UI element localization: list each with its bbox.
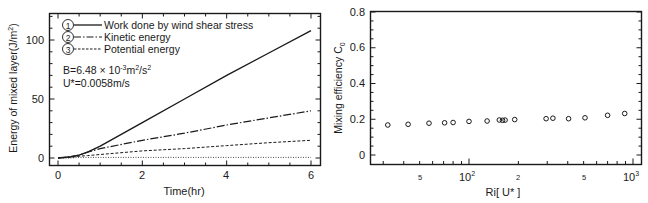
- legend-label-work: Work done by wind shear stress: [104, 19, 253, 31]
- scatter-point: [442, 121, 447, 126]
- left-axis-ticks: [50, 14, 321, 166]
- right-xtick-100: 102: [459, 170, 475, 183]
- scatter-point: [467, 119, 472, 124]
- line-kinetic-energy: [58, 111, 311, 158]
- scatter-point: [622, 111, 627, 116]
- scatter-point: [451, 120, 456, 125]
- scatter-point: [406, 122, 411, 127]
- left-chart: 0 50 100 0 2 4 6 Time(hr) Energy of mixe…: [7, 14, 321, 198]
- right-ytick-0.6: 0.6: [350, 41, 365, 53]
- line-work-done: [58, 31, 311, 158]
- right-xtick-200: 2: [516, 173, 520, 182]
- left-ytick-50: 50: [32, 93, 44, 105]
- left-xtick-4: 4: [223, 169, 229, 181]
- scatter-point: [544, 116, 549, 121]
- annotation-buoyancy-flux: B=6.48 × 10-3m2/s2: [63, 64, 151, 76]
- right-x-axis-label: Ri[ U* ]: [486, 186, 521, 198]
- legend-item-work: 1 Work done by wind shear stress: [63, 19, 254, 31]
- figure: 0 50 100 0 2 4 6 Time(hr) Energy of mixe…: [0, 0, 648, 203]
- scatter-point: [583, 116, 588, 121]
- legend-item-potential: 3 Potential energy: [63, 43, 181, 55]
- right-axis-ticks: [371, 12, 642, 165]
- right-plot-frame: [371, 12, 642, 165]
- legend-number-3: 3: [66, 45, 71, 55]
- right-ytick-0: 0: [359, 149, 365, 161]
- left-y-axis-label: Energy of mixed layer(J/m2): [7, 23, 19, 152]
- line-reference-dotted: [58, 157, 311, 158]
- left-series: [58, 31, 311, 158]
- right-chart: 0 0.2 0.4 0.6 0.8 5 102 2 5 103 Ri[ U* ]…: [332, 6, 642, 198]
- left-ytick-0: 0: [38, 152, 44, 164]
- right-ytick-0.2: 0.2: [350, 113, 365, 125]
- right-ytick-0.8: 0.8: [350, 6, 365, 18]
- legend-label-kinetic: Kinetic energy: [104, 31, 171, 43]
- scatter-point: [512, 117, 517, 122]
- line-potential-energy: [58, 140, 311, 158]
- right-xtick-1000: 103: [623, 170, 639, 183]
- scatter-point: [427, 121, 432, 126]
- left-xtick-2: 2: [139, 169, 145, 181]
- left-ytick-100: 100: [26, 34, 44, 46]
- scatter-point: [566, 116, 571, 121]
- right-ytick-0.4: 0.4: [350, 77, 365, 89]
- left-xtick-6: 6: [308, 169, 314, 181]
- scatter-point: [551, 116, 556, 121]
- left-x-axis-label: Time(hr): [163, 185, 204, 197]
- left-legend: 1 Work done by wind shear stress 2 Kinet…: [63, 19, 254, 55]
- legend-number-2: 2: [66, 33, 71, 43]
- annotation-friction-velocity: U*=0.0058m/s: [63, 77, 130, 89]
- right-xtick-50: 5: [418, 173, 422, 182]
- right-scatter-points: [386, 111, 628, 127]
- left-plot-frame: [50, 14, 321, 166]
- scatter-point: [605, 113, 610, 118]
- right-xtick-500: 5: [582, 173, 586, 182]
- scatter-point: [485, 119, 490, 124]
- scatter-point: [386, 123, 391, 128]
- legend-item-kinetic: 2 Kinetic energy: [63, 31, 172, 43]
- legend-label-potential: Potential energy: [104, 43, 181, 55]
- right-y-axis-label: Mixing efficiency C0: [332, 42, 346, 133]
- left-xtick-0: 0: [55, 169, 61, 181]
- legend-number-1: 1: [66, 21, 71, 31]
